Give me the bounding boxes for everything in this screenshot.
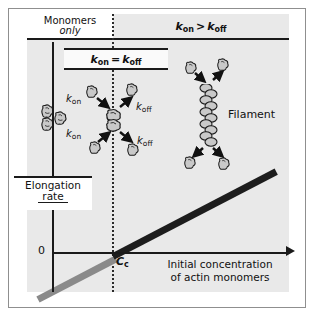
x-axis-label-line1: Initial concentration — [150, 258, 290, 271]
y-axis-label-line2: rate — [38, 191, 67, 203]
x-axis-arrowhead-icon — [286, 246, 295, 256]
filament-icon — [197, 84, 223, 152]
header-monomers-only: Monomers only — [27, 14, 113, 38]
header-k-symbol-2: k — [207, 20, 214, 33]
filament-bottom-right-arrow-icon — [212, 147, 226, 160]
koff-lower-arrow-icon — [119, 131, 135, 145]
filament-bottom-left-arrow-icon — [193, 147, 207, 160]
koff-upper-sub: off — [142, 105, 152, 114]
header-only-label: only — [59, 26, 80, 36]
y-axis-label: Elongation rate — [14, 176, 92, 210]
x-axis — [52, 252, 289, 254]
x-axis-label: Initial concentration of actin monomers — [150, 258, 290, 283]
y-axis — [52, 42, 54, 292]
critical-concentration-label: Cc — [116, 255, 129, 268]
kon-lower-sub: on — [72, 132, 81, 141]
koff-lower-k: k — [137, 135, 143, 146]
kon-lower-arrow-icon — [97, 131, 113, 145]
eq-k-symbol-1: k — [90, 53, 97, 66]
header-operator: > — [194, 20, 207, 33]
kon-upper-k: k — [66, 93, 72, 104]
filament-label: Filament — [228, 108, 275, 121]
koff-upper-k: k — [136, 101, 142, 112]
header-kon-gt-koff: kon>koff — [113, 14, 289, 38]
cc-subscript: c — [124, 260, 129, 269]
filament-top-left-arrow-icon — [194, 72, 208, 85]
header-k-symbol-1: k — [175, 20, 182, 33]
monomer-dissociating-upper-icon — [125, 83, 139, 97]
kon-upper-arrow-icon — [96, 97, 112, 111]
eq-on-subscript: on — [98, 58, 109, 67]
eq-k-symbol-2: k — [122, 53, 129, 66]
header-off-subscript: off — [215, 25, 227, 34]
koff-lower-sub: off — [143, 139, 153, 148]
kon-upper-label: kon — [66, 93, 81, 104]
koff-lower-label: koff — [137, 135, 153, 146]
x-axis-label-line2: of actin monomers — [150, 271, 290, 284]
kon-lower-k: k — [66, 128, 72, 139]
equilibrium-callout-box: kon=koff — [64, 48, 168, 70]
y-axis-zero-tick-label: 0 — [38, 244, 45, 257]
eq-off-subscript: off — [130, 58, 142, 67]
kon-lower-label: kon — [66, 128, 81, 139]
koff-upper-arrow-icon — [119, 96, 135, 110]
filament-top-right-arrow-icon — [212, 70, 226, 83]
header-band: Monomers only kon>koff — [27, 14, 289, 40]
koff-upper-label: koff — [136, 101, 152, 112]
figure-root: Monomers only kon>koff kon=koff — [0, 0, 316, 318]
free-monomer-icon — [53, 111, 68, 126]
header-on-subscript: on — [183, 25, 194, 34]
kon-upper-sub: on — [72, 97, 81, 106]
eq-operator: = — [109, 53, 122, 66]
cc-symbol: C — [116, 255, 124, 268]
